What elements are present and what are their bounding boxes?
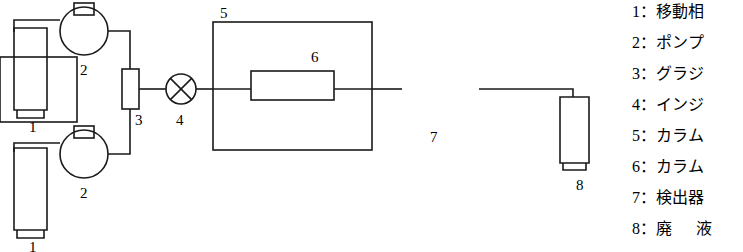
legend-text-1: 移動相 <box>656 3 704 20</box>
tube-top-reservoir-to-pump <box>14 20 60 32</box>
label-column-oven: 5 <box>220 6 228 21</box>
legend-text-4: インジ <box>656 96 704 113</box>
legend-item-8: 8：廃 液 <box>632 221 716 237</box>
legend-item-1: 1：移動相 <box>632 4 704 20</box>
label-gradient-unit: 3 <box>135 113 143 128</box>
legend-item-6: 6：カラム <box>632 159 704 175</box>
waste-bottle <box>560 97 589 170</box>
legend-item-4: 4：インジ <box>632 97 704 113</box>
gradient-unit <box>122 69 139 109</box>
label-injector: 4 <box>176 113 184 128</box>
reservoir-bottom <box>14 148 47 238</box>
pump-top <box>60 3 108 55</box>
legend-colon-6: ： <box>640 158 656 175</box>
legend-colon-3: ： <box>640 65 656 82</box>
legend-text-5: カラム <box>656 127 704 144</box>
legend-number-4: 4 <box>632 96 640 113</box>
legend-item-3: 3：グラジ <box>632 66 704 82</box>
legend-text-2: ポンプ <box>656 34 704 51</box>
legend-item-7: 7：検出器 <box>632 190 704 206</box>
legend-item-5: 5：カラム <box>632 128 704 144</box>
label-reservoir-top: 1 <box>29 120 37 135</box>
tube-detector-to-waste <box>479 89 573 97</box>
label-pump-top: 2 <box>80 63 88 78</box>
legend-number-1: 1 <box>632 3 640 20</box>
legend-number-6: 6 <box>632 158 640 175</box>
legend-text-6: カラム <box>656 158 704 175</box>
legend-text-8: 廃 液 <box>656 220 716 237</box>
legend-colon-2: ： <box>640 34 656 51</box>
schematic-drawing <box>0 0 630 252</box>
tube-bottom-pump-to-gradient <box>108 109 130 154</box>
legend-text-3: グラジ <box>656 65 704 82</box>
detector <box>0 57 77 122</box>
label-detector: 7 <box>430 130 438 145</box>
legend-colon-8: ： <box>640 220 656 237</box>
reservoir-top <box>14 28 47 118</box>
pump-bottom <box>60 126 108 178</box>
hplc-flow-diagram: 1 2 2 1 3 4 5 6 7 8 1：移動相 2：ポンプ 3：グラジ 4：… <box>0 0 743 252</box>
legend-number-3: 3 <box>632 65 640 82</box>
legend-colon-1: ： <box>640 3 656 20</box>
tube-top-pump-to-gradient <box>108 31 130 69</box>
legend: 1：移動相 2：ポンプ 3：グラジ 4：インジ 5：カラム 6：カラム 7：検出… <box>632 0 743 252</box>
legend-colon-7: ： <box>640 189 656 206</box>
column-oven <box>213 22 372 150</box>
legend-number-2: 2 <box>632 34 640 51</box>
legend-colon-5: ： <box>640 127 656 144</box>
legend-number-8: 8 <box>632 220 640 237</box>
label-reservoir-bottom: 1 <box>29 240 37 252</box>
label-waste: 8 <box>576 178 584 193</box>
legend-colon-4: ： <box>640 96 656 113</box>
legend-item-2: 2：ポンプ <box>632 35 704 51</box>
legend-number-7: 7 <box>632 189 640 206</box>
injector <box>166 74 196 104</box>
legend-number-5: 5 <box>632 127 640 144</box>
column <box>251 71 334 100</box>
label-pump-bottom: 2 <box>80 186 88 201</box>
legend-text-7: 検出器 <box>656 189 704 206</box>
label-column: 6 <box>311 50 319 65</box>
